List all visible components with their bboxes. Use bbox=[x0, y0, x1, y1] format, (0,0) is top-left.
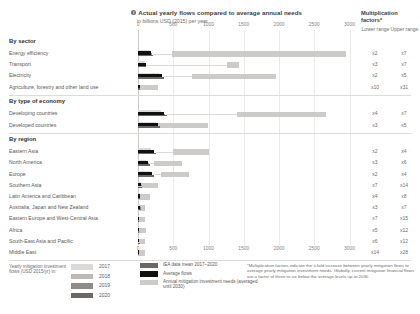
axis-tick-label: 1000 bbox=[203, 22, 214, 27]
row-label: North America bbox=[9, 159, 42, 165]
legend-swatch bbox=[140, 280, 158, 285]
flow-bar-2020 bbox=[138, 55, 153, 56]
row-label: Africa bbox=[9, 227, 22, 233]
group-heading-by-type-of-economy: By type of economy bbox=[9, 98, 65, 104]
factor-upper-range: x7 bbox=[393, 61, 415, 67]
gridline-3000 bbox=[350, 30, 351, 245]
legend-swatch-2020 bbox=[71, 293, 93, 299]
connector-line bbox=[153, 54, 172, 55]
row-label: Developed countries bbox=[9, 122, 56, 128]
needs-range-bar bbox=[227, 62, 239, 67]
row-label: Middle East bbox=[9, 249, 36, 255]
average-flow-bar bbox=[138, 74, 162, 77]
average-flow-bar bbox=[138, 228, 139, 231]
factor-upper-range: x12 bbox=[393, 227, 415, 233]
factor-upper-range: x28 bbox=[393, 249, 415, 255]
connector-line bbox=[150, 163, 155, 164]
flow-bar-2020 bbox=[138, 153, 156, 154]
flow-bar-2020 bbox=[138, 231, 139, 232]
axis-tick-label: 3000 bbox=[344, 22, 355, 27]
axis-tick-label: 500 bbox=[169, 22, 177, 27]
row-label: Europe bbox=[9, 171, 26, 177]
legend-item-label: Average flows bbox=[163, 271, 192, 276]
average-flow-bar bbox=[138, 194, 140, 197]
needs-range-bar bbox=[139, 183, 158, 188]
average-flow-bar bbox=[138, 112, 164, 115]
factor-lower-range: x5 bbox=[364, 227, 386, 233]
row-label: Developing countries bbox=[9, 110, 57, 116]
axis-tick-label: 1500 bbox=[238, 246, 249, 251]
legend-year-label: 2020 bbox=[99, 293, 110, 298]
axis-tick-label: 2000 bbox=[274, 22, 285, 27]
needs-range-bar bbox=[192, 74, 276, 79]
factor-upper-range: x31 bbox=[393, 84, 415, 90]
flow-bar-2020 bbox=[138, 66, 146, 67]
axis-tick-label: 0 bbox=[137, 22, 140, 27]
page-title: fActual yearly flows compared to average… bbox=[131, 9, 361, 16]
flow-bar-2020 bbox=[138, 88, 140, 89]
legend-year-row: 2020 bbox=[71, 291, 110, 301]
row-label: Latin America and Caribbean bbox=[9, 193, 76, 199]
row-label: Southern Asia bbox=[9, 182, 41, 188]
gridline-1500 bbox=[244, 30, 245, 245]
average-flow-bar bbox=[138, 172, 152, 175]
factor-lower-range: x4 bbox=[364, 110, 386, 116]
axis-tick-label: 1000 bbox=[203, 246, 214, 251]
axis-tick-label: 3000 bbox=[344, 246, 355, 251]
connector-line bbox=[167, 114, 237, 115]
flow-bar-2020 bbox=[138, 187, 142, 188]
legend-year-row: 2017 bbox=[71, 262, 110, 272]
row-label: Eastern Europe and West-Central Asia bbox=[9, 215, 98, 221]
row-label: Transport bbox=[9, 61, 31, 67]
average-flow-bar bbox=[138, 206, 140, 209]
needs-range-bar bbox=[138, 85, 158, 90]
flow-bar-2020 bbox=[138, 115, 167, 116]
legend-swatch-2019 bbox=[71, 283, 93, 289]
factor-lower-range: x10 bbox=[364, 84, 386, 90]
axis-tick-label: 1500 bbox=[238, 22, 249, 27]
needs-range-bar bbox=[138, 250, 144, 255]
footnote: *Multiplication factors indicate the x-f… bbox=[247, 263, 415, 279]
legend-item-label: IEA data mean 2017–2020 bbox=[163, 262, 217, 267]
factor-upper-range: x7 bbox=[393, 110, 415, 116]
average-flow-bar bbox=[138, 63, 146, 66]
average-flow-bar bbox=[138, 239, 139, 242]
legend-year-label: 2017 bbox=[99, 264, 110, 269]
average-flow-bar bbox=[138, 161, 148, 164]
flow-bar-2020 bbox=[138, 126, 160, 127]
factor-lower-range: x7 bbox=[364, 182, 386, 188]
gridline-1000 bbox=[209, 30, 210, 245]
factor-upper-range: x5 bbox=[393, 122, 415, 128]
flow-bar-2020 bbox=[138, 198, 140, 199]
needs-range-bar bbox=[237, 112, 326, 117]
average-flow-bar bbox=[138, 250, 139, 253]
factor-upper-range: x8 bbox=[393, 193, 415, 199]
factor-lower-range: x3 bbox=[364, 122, 386, 128]
flow-bar-2020 bbox=[138, 209, 141, 210]
row-label: Electricity bbox=[9, 72, 31, 78]
legend-year-label: 2018 bbox=[99, 274, 110, 279]
row-label: Australia, Japan and New Zealand bbox=[9, 204, 88, 210]
flow-bar-2020 bbox=[138, 220, 139, 221]
legend-swatch bbox=[140, 271, 158, 276]
factor-lower-range: x2 bbox=[364, 171, 386, 177]
needs-range-bar bbox=[154, 161, 181, 166]
average-flow-bar bbox=[138, 150, 154, 153]
factor-lower-range: x3 bbox=[364, 61, 386, 67]
needs-range-bar bbox=[173, 149, 208, 154]
legend-year-row: 2019 bbox=[71, 281, 110, 291]
gridline-2000 bbox=[279, 30, 280, 245]
average-flow-bar bbox=[138, 217, 139, 220]
flow-bar-2020 bbox=[138, 175, 154, 176]
factor-upper-range: x7 bbox=[393, 50, 415, 56]
factor-upper-range: x15 bbox=[393, 215, 415, 221]
bullet-marker-icon: f bbox=[131, 10, 136, 15]
group-heading-by-region: By region bbox=[9, 136, 36, 142]
legend-swatch-2017 bbox=[71, 264, 93, 270]
axis-tick-row-top: 050010001500200025003000 bbox=[0, 22, 420, 30]
legend-swatch bbox=[140, 263, 158, 268]
row-label: Agriculture, forestry and other land use bbox=[9, 84, 98, 90]
gridline-500 bbox=[173, 30, 174, 245]
factor-lower-range: x2 bbox=[364, 148, 386, 154]
legend-year-swatches: 2017201820192020 bbox=[71, 262, 110, 300]
